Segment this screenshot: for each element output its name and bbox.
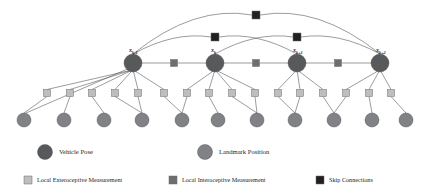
exteroceptive-measurement-square[interactable] bbox=[343, 90, 350, 97]
exteroceptive-measurement-square[interactable] bbox=[44, 90, 51, 97]
exteroceptive-measurement-square[interactable] bbox=[161, 90, 168, 97]
exteroceptive-to-landmark-edge bbox=[115, 97, 142, 114]
skip-arc bbox=[133, 13, 252, 54]
legend-label-landmark-position: Landmark Position bbox=[219, 148, 270, 155]
exteroceptive-measurement-square[interactable] bbox=[366, 90, 373, 97]
landmark-position-node[interactable] bbox=[211, 113, 225, 127]
exteroceptive-to-landmark-edge bbox=[391, 97, 406, 114]
legend-swatch-skip-connections bbox=[316, 176, 324, 184]
landmark-position-node[interactable] bbox=[288, 113, 302, 127]
pose-labels-layer: xk-1xkxk+1xk+2 bbox=[128, 47, 387, 55]
skip-arc bbox=[260, 13, 380, 54]
pose-to-exteroceptive-edge bbox=[297, 70, 323, 90]
legend-label-local-exteroceptive: Local Exteroceptive Measurement bbox=[37, 176, 122, 183]
pose-to-exteroceptive-edge bbox=[209, 70, 215, 90]
landmark-position-node[interactable] bbox=[57, 113, 71, 127]
legend-label-local-interoceptive: Local Interoceptive Measurement bbox=[182, 176, 266, 183]
exteroceptive-to-landmark-edge bbox=[24, 97, 47, 114]
skip-arc bbox=[215, 36, 293, 54]
exteroceptive-to-landmark-edge bbox=[295, 97, 300, 114]
pose-label: xk-1 bbox=[128, 47, 138, 55]
exteroceptive-to-landmark-edge bbox=[369, 97, 372, 114]
exteroceptive-to-landmark-edge bbox=[278, 97, 295, 114]
pose-to-exteroceptive-edge bbox=[215, 70, 255, 90]
exteroceptive-measurement-square[interactable] bbox=[297, 90, 304, 97]
exteroceptive-to-landmark-edge bbox=[182, 97, 187, 114]
vehicle-pose-node[interactable] bbox=[288, 54, 306, 72]
exteroceptive-to-landmark-edge bbox=[209, 97, 218, 114]
landmark-position-node[interactable] bbox=[17, 113, 31, 127]
skip-arcs-layer bbox=[133, 13, 380, 54]
exteroceptive-measurement-square[interactable] bbox=[67, 90, 74, 97]
legend-layer: Vehicle PoseLandmark PositionLocal Exter… bbox=[24, 145, 373, 185]
pose-to-exteroceptive-edge bbox=[297, 70, 300, 90]
legend-swatch-vehicle-pose bbox=[38, 145, 53, 160]
nodes-layer bbox=[17, 11, 413, 127]
landmark-position-node[interactable] bbox=[250, 113, 264, 127]
exteroceptive-measurement-square[interactable] bbox=[320, 90, 327, 97]
landmark-position-node[interactable] bbox=[365, 113, 379, 127]
interoceptive-measurement-square[interactable] bbox=[335, 60, 342, 67]
exteroceptive-to-landmark-edge bbox=[232, 97, 257, 114]
legend-swatch-landmark-position bbox=[198, 145, 213, 160]
pose-label: xk bbox=[210, 47, 217, 55]
pose-to-exteroceptive-edge bbox=[346, 70, 380, 90]
exteroceptive-measurement-square[interactable] bbox=[229, 90, 236, 97]
pose-label: xk+1 bbox=[292, 47, 303, 55]
exteroceptive-to-landmark-edge bbox=[92, 97, 104, 114]
exteroceptive-measurement-square[interactable] bbox=[135, 90, 142, 97]
pose-to-exteroceptive-edge bbox=[380, 70, 391, 90]
exteroceptive-measurement-square[interactable] bbox=[184, 90, 191, 97]
skip-connection-square[interactable] bbox=[293, 33, 301, 41]
pose-to-exteroceptive-edge bbox=[92, 70, 133, 90]
exteroceptive-to-landmark-edge bbox=[255, 97, 257, 114]
vehicle-pose-node[interactable] bbox=[371, 54, 389, 72]
legend-label-vehicle-pose: Vehicle Pose bbox=[59, 148, 93, 155]
interoceptive-measurement-square[interactable] bbox=[171, 60, 178, 67]
pose-label: xk+2 bbox=[375, 47, 387, 55]
legend-swatch-local-exteroceptive bbox=[24, 176, 32, 184]
exteroceptive-measurement-square[interactable] bbox=[206, 90, 213, 97]
landmark-position-node[interactable] bbox=[327, 113, 341, 127]
legend-label-skip-connections: Skip Connections bbox=[329, 176, 373, 183]
skip-connection-square[interactable] bbox=[252, 11, 260, 19]
vehicle-pose-node[interactable] bbox=[124, 54, 142, 72]
landmark-position-node[interactable] bbox=[399, 113, 413, 127]
exteroceptive-measurement-square[interactable] bbox=[89, 90, 96, 97]
exteroceptive-to-landmark-edge bbox=[334, 97, 346, 114]
skip-connection-square[interactable] bbox=[211, 33, 219, 41]
landmark-position-node[interactable] bbox=[135, 113, 149, 127]
exteroceptive-to-landmark-edge bbox=[64, 97, 70, 114]
exteroceptive-measurement-square[interactable] bbox=[252, 90, 259, 97]
exteroceptive-measurement-square[interactable] bbox=[388, 90, 395, 97]
exteroceptive-to-landmark-edge bbox=[164, 97, 182, 114]
exteroceptive-to-landmark-edge bbox=[323, 97, 334, 114]
skip-arc bbox=[219, 36, 297, 54]
pose-to-exteroceptive-edge bbox=[278, 70, 297, 90]
pose-to-exteroceptive-edge bbox=[133, 70, 164, 90]
exteroceptive-to-landmark-edge bbox=[138, 97, 142, 114]
legend-swatch-local-interoceptive bbox=[169, 176, 177, 184]
interoceptive-measurement-square[interactable] bbox=[253, 60, 260, 67]
pose-to-exteroceptive-edge bbox=[47, 70, 133, 90]
landmark-position-node[interactable] bbox=[175, 113, 189, 127]
pose-graph-svg: xk-1xkxk+1xk+2Vehicle PoseLandmark Posit… bbox=[0, 0, 424, 195]
exteroceptive-measurement-square[interactable] bbox=[275, 90, 282, 97]
pose-to-exteroceptive-edge bbox=[70, 70, 133, 90]
pose-to-exteroceptive-edge bbox=[215, 70, 232, 90]
diagram-canvas: xk-1xkxk+1xk+2Vehicle PoseLandmark Posit… bbox=[0, 0, 424, 195]
vehicle-pose-node[interactable] bbox=[206, 54, 224, 72]
pose-to-exteroceptive-edge bbox=[187, 70, 215, 90]
landmark-position-node[interactable] bbox=[97, 113, 111, 127]
exteroceptive-measurement-square[interactable] bbox=[112, 90, 119, 97]
